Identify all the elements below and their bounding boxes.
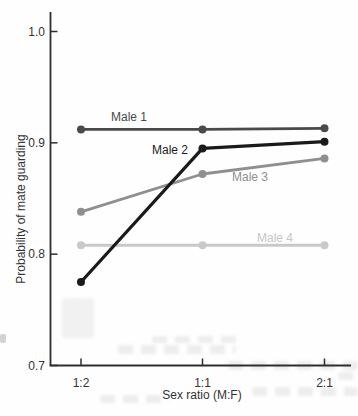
y-axis-title: Probability of mate guarding (14, 134, 28, 283)
series-label-male-2: Male 2 (152, 143, 188, 157)
y-tick-label-1.0: 1.0 (28, 25, 45, 39)
data-point-male-4-1:2 (77, 241, 85, 249)
data-point-male-4-2:1 (321, 241, 329, 249)
data-point-male-2-2:1 (321, 138, 329, 146)
y-tick-label-0.8: 0.8 (28, 247, 45, 261)
data-point-male-2-1:1 (199, 144, 207, 152)
data-point-male-1-2:1 (321, 124, 329, 132)
series-label-male-4: Male 4 (257, 231, 293, 245)
data-point-male-1-1:2 (77, 125, 85, 133)
data-point-male-4-1:1 (199, 241, 207, 249)
data-point-male-1-1:1 (199, 125, 207, 133)
mate-guarding-line-chart-figure: Probability of mate guarding Sex ratio (… (0, 0, 358, 416)
x-tick-label-2:1: 2:1 (316, 376, 333, 390)
x-tick-label-1:1: 1:1 (194, 376, 211, 390)
series-label-male-1: Male 1 (111, 110, 147, 124)
line-chart-canvas (0, 0, 358, 416)
data-point-male-3-2:1 (321, 154, 329, 162)
series-label-male-3: Male 3 (232, 170, 268, 184)
series-line-male-3 (81, 158, 325, 211)
data-point-male-2-1:2 (77, 278, 85, 286)
y-tick-label-0.7: 0.7 (28, 359, 45, 373)
data-point-male-3-1:2 (77, 208, 85, 216)
y-tick-label-0.9: 0.9 (28, 136, 45, 150)
x-tick-label-1:2: 1:2 (73, 376, 90, 390)
x-axis-title: Sex ratio (M:F) (162, 388, 241, 402)
data-point-male-3-1:1 (199, 170, 207, 178)
